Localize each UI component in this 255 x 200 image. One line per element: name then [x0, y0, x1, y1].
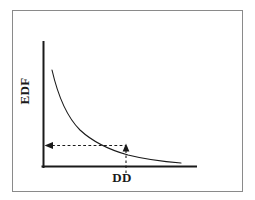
- y-axis-label: EDF: [17, 61, 33, 121]
- horizontal-dashed-arrow: [45, 142, 127, 149]
- vertical-arrowhead-icon: [123, 144, 130, 152]
- vertical-dashed-arrow: [123, 144, 130, 174]
- edf-curve: [52, 70, 181, 163]
- x-axis-label: DD: [92, 170, 152, 186]
- figure-root: EDF DD: [0, 0, 255, 200]
- horizontal-arrowhead-icon: [45, 142, 54, 149]
- axes-group: [43, 42, 197, 167]
